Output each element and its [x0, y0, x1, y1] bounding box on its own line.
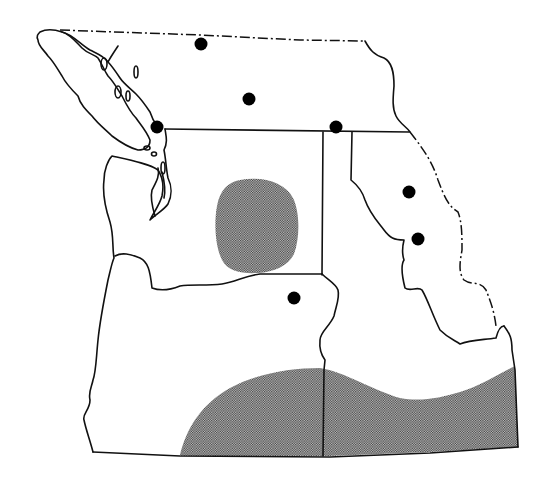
stippled-range-southern: [180, 366, 518, 456]
locality-dot: [330, 121, 343, 134]
locality-dot: [195, 38, 208, 51]
vancouver-island: [37, 30, 150, 150]
washington-idaho-border: [322, 132, 323, 275]
island: [152, 152, 157, 156]
canada-border-dashed: [60, 30, 365, 41]
idaho-montana-border: [410, 132, 496, 326]
locality-dot: [288, 292, 301, 305]
mainland-bc-coast: [62, 32, 157, 126]
idaho-panhandle-west-boundary: [351, 132, 504, 344]
range-map: [0, 0, 540, 479]
locality-dot: [403, 186, 416, 199]
island: [161, 162, 165, 174]
island: [134, 66, 138, 78]
locality-dots: [151, 38, 425, 305]
international-border-49th: [165, 129, 409, 132]
northern-region-east-boundary: [365, 41, 410, 132]
washington-oregon-border: [115, 254, 322, 290]
island: [126, 91, 130, 101]
locality-dot: [243, 93, 256, 106]
locality-dot: [151, 121, 164, 134]
locality-dot: [412, 233, 425, 246]
stippled-range-central-washington: [215, 179, 298, 273]
